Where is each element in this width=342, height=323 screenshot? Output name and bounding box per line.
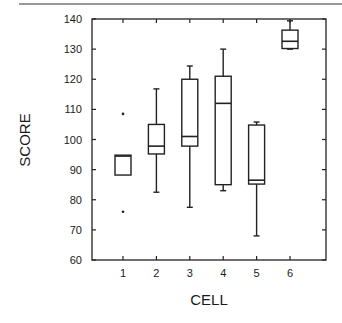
x-tick-label: 5 bbox=[254, 267, 260, 279]
plot-frame bbox=[92, 19, 326, 260]
y-tick-label: 110 bbox=[64, 103, 82, 115]
y-tick-label: 70 bbox=[70, 224, 82, 236]
x-tick-label: 4 bbox=[220, 267, 226, 279]
iqr-box bbox=[148, 124, 164, 154]
outlier-point bbox=[122, 211, 125, 214]
iqr-box bbox=[115, 155, 131, 175]
box-cell-1 bbox=[115, 113, 131, 214]
boxes bbox=[115, 21, 298, 236]
x-tick-label: 1 bbox=[120, 267, 126, 279]
outlier-point bbox=[122, 113, 125, 116]
box-cell-2 bbox=[148, 89, 164, 192]
y-tick-label: 90 bbox=[70, 164, 82, 176]
y-tick-label: 140 bbox=[64, 13, 82, 25]
y-tick-label: 60 bbox=[70, 254, 82, 266]
box-cell-4 bbox=[215, 49, 231, 191]
x-tick-label: 2 bbox=[153, 267, 159, 279]
plot-area bbox=[92, 19, 326, 260]
y-tick-label: 130 bbox=[64, 43, 82, 55]
y-tick-label: 100 bbox=[64, 134, 82, 146]
y-axis-label: SCORE bbox=[16, 113, 33, 166]
y-tick-label: 80 bbox=[70, 194, 82, 206]
iqr-box bbox=[249, 125, 265, 184]
x-tick-label: 6 bbox=[287, 267, 293, 279]
x-axis-label: CELL bbox=[190, 291, 228, 308]
y-tick-label: 120 bbox=[64, 73, 82, 85]
x-axis-ticks: 123456 bbox=[120, 19, 293, 279]
box-cell-3 bbox=[182, 66, 198, 207]
x-tick-label: 3 bbox=[187, 267, 193, 279]
box-cell-5 bbox=[249, 122, 265, 236]
box-plot-chart: 60708090100110120130140 123456 CELL SCOR… bbox=[0, 0, 342, 323]
iqr-box bbox=[215, 76, 231, 184]
box-cell-6 bbox=[282, 21, 298, 49]
iqr-box bbox=[282, 30, 298, 48]
